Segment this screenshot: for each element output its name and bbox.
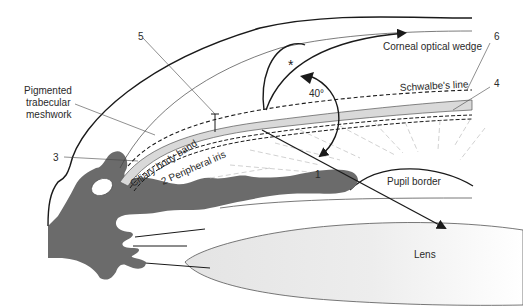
corneal-wedge-label: Corneal optical wedge [383, 41, 482, 52]
label-6: 6 [494, 31, 500, 42]
pigmented-tm-label-3: meshwork [26, 109, 73, 120]
lens-shape [185, 223, 523, 306]
angle-label: 40° [309, 88, 324, 99]
pupil-plane-line [220, 198, 472, 208]
leader-lines [64, 38, 490, 161]
label-3: 3 [53, 152, 59, 163]
pigmented-tm-label-1: Pigmented [24, 85, 72, 96]
label-1: 1 [315, 169, 321, 180]
star-marker: * [288, 57, 294, 73]
lens-label: Lens [414, 249, 436, 260]
label-5: 5 [138, 31, 144, 42]
pigmented-tm-label-2: trabecular [26, 97, 71, 108]
label-4: 4 [494, 78, 500, 89]
pupil-border-label: Pupil border [387, 176, 442, 187]
gonioscopy-diagram: 5 6 4 3 1 Pigmented trabecular meshwork … [0, 0, 523, 306]
angle-arc-start-head [300, 72, 314, 84]
